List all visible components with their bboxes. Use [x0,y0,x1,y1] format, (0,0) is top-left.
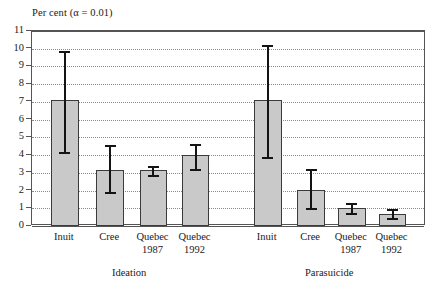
gridline-0 [32,226,424,227]
error-bar-cap-lower [306,208,317,210]
bar-chart-figure: Per cent (α = 0.01) 01234567891011 Inuit… [0,0,437,290]
y-tick-label: 10 [14,41,25,54]
error-bar-cap-lower [148,175,159,177]
bar-ideation-quebec-1987 [140,170,168,226]
group-label-parasuicide: Parasuicide [269,266,389,279]
error-bar-line [267,45,269,157]
gridline-6 [32,120,424,121]
error-bar-cap-lower [190,169,201,171]
y-tick-label: 7 [19,94,24,107]
gridline-8 [32,84,424,85]
y-tick-label: 11 [14,23,24,36]
error-bar-cap-upper [148,166,159,168]
error-bar-line [109,145,111,192]
error-bar-cap-upper [346,203,357,205]
plot-area [32,31,424,224]
y-tick-label: 1 [19,200,24,213]
y-tick-label: 5 [19,129,24,142]
gridline-7 [32,102,424,103]
gridline-9 [32,66,424,67]
error-bar-cap-lower [346,213,357,215]
y-tick-label: 0 [19,218,24,231]
chart-title: Per cent (α = 0.01) [32,7,113,19]
error-bar-line [64,51,66,152]
error-bar-cap-lower [105,192,116,194]
gridline-5 [32,137,424,138]
y-axis: 01234567891011 [0,30,31,225]
category-label-7: Quebec 1992 [362,230,422,256]
y-tick-label: 9 [19,58,24,71]
error-bar-cap-upper [387,209,398,211]
error-bar-cap-upper [190,144,201,146]
error-bar-line [310,169,312,208]
y-tick-label: 4 [19,147,24,160]
error-bar-line [195,144,197,169]
gridline-2 [32,191,424,192]
y-tick-label: 2 [19,183,24,196]
plot-frame [31,30,425,225]
error-bar-cap-upper [105,145,116,147]
y-tick-label: 8 [19,76,24,89]
error-bar-cap-upper [306,169,317,171]
error-bar-cap-upper [262,45,273,47]
error-bar-cap-lower [59,152,70,154]
group-label-ideation: Ideation [69,266,189,279]
error-bar-cap-lower [262,157,273,159]
error-bar-cap-upper [59,51,70,53]
category-label-3: Quebec 1992 [165,230,225,256]
gridline-10 [32,49,424,50]
error-bar-cap-lower [387,218,398,220]
gridline-11 [32,31,424,32]
gridline-3 [32,173,424,174]
y-tick-label: 3 [19,165,24,178]
y-tick-label: 6 [19,112,24,125]
gridline-4 [32,155,424,156]
